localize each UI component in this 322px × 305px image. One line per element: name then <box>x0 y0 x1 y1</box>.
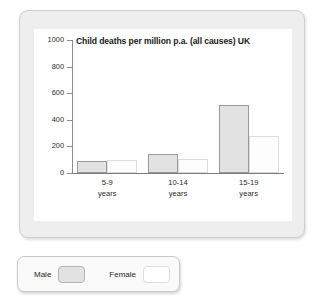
y-axis-tick-label: 400 <box>34 116 64 123</box>
x-axis-label-range: 10-14 <box>146 178 210 189</box>
y-axis-tick-label: 0 <box>34 169 64 176</box>
x-axis-label-range: 15-19 <box>217 178 281 189</box>
y-axis-tick <box>67 146 72 147</box>
legend-label-female: Female <box>109 270 136 279</box>
legend-item-male: Male <box>34 266 85 283</box>
y-axis-tick-label: 1000 <box>34 36 64 43</box>
x-axis-group-label: 15-19years <box>217 178 281 199</box>
chart-axes: 02004006008001000 5-9years10-14years15-1… <box>34 29 292 221</box>
x-axis-line <box>72 173 284 174</box>
y-axis-tick <box>67 120 72 121</box>
legend-label-male: Male <box>34 270 51 279</box>
chart-frame: Child deaths per million p.a. (all cause… <box>19 10 305 238</box>
bar-female-0 <box>107 160 137 173</box>
bar-male-1 <box>148 154 178 173</box>
y-axis-tick <box>67 93 72 94</box>
x-axis-label-unit: years <box>146 189 210 200</box>
chart-legend: Male Female <box>17 256 180 292</box>
y-axis-tick-label: 800 <box>34 63 64 70</box>
y-axis-tick <box>67 173 72 174</box>
y-axis-tick-label: 200 <box>34 142 64 149</box>
bar-female-2 <box>249 136 279 173</box>
x-axis-group-label: 10-14years <box>146 178 210 199</box>
plot-card: Child deaths per million p.a. (all cause… <box>34 29 292 221</box>
y-axis-tick <box>67 67 72 68</box>
y-axis-tick-label: 600 <box>34 89 64 96</box>
x-axis-label-unit: years <box>75 189 139 200</box>
legend-swatch-female <box>143 266 170 283</box>
x-axis-label-range: 5-9 <box>75 178 139 189</box>
legend-swatch-male <box>58 266 85 283</box>
y-axis-line <box>72 40 73 174</box>
bar-male-0 <box>77 161 107 173</box>
x-axis-label-unit: years <box>217 189 281 200</box>
legend-item-female: Female <box>109 266 170 283</box>
bar-male-2 <box>219 105 249 173</box>
bar-female-1 <box>178 159 208 173</box>
y-axis-tick <box>67 40 72 41</box>
x-axis-group-label: 5-9years <box>75 178 139 199</box>
